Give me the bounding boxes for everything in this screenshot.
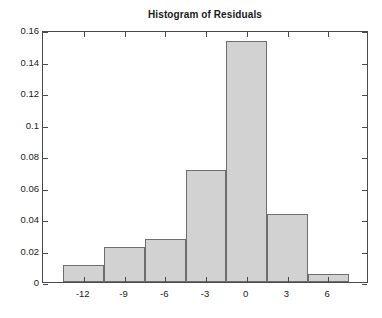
y-tick-mark (43, 190, 48, 191)
chart-title: Histogram of Residuals (42, 9, 368, 20)
y-tick-mark-right (362, 221, 367, 222)
histogram-bar (267, 214, 308, 282)
histogram-bar (186, 170, 227, 282)
x-tick-label: 6 (307, 288, 347, 299)
y-tick-mark (43, 32, 48, 33)
x-tick-label: 3 (267, 288, 307, 299)
plot-area (43, 32, 367, 282)
y-tick-label: 0.02 (3, 246, 39, 257)
y-tick-mark-right (362, 284, 367, 285)
x-tick-label: -12 (63, 288, 103, 299)
y-tick-mark (43, 158, 48, 159)
y-tick-label: 0.04 (3, 214, 39, 225)
x-tick-mark-top (288, 32, 289, 37)
y-tick-mark-right (362, 127, 367, 128)
y-axis: 00.020.040.060.080.10.120.140.16 (0, 31, 39, 283)
histogram-bar (226, 41, 267, 282)
x-tick-mark-top (125, 32, 126, 37)
y-tick-mark-right (362, 158, 367, 159)
y-tick-label: 0.06 (3, 183, 39, 194)
x-tick-mark-top (84, 32, 85, 37)
plot-frame (42, 31, 368, 283)
y-tick-mark-right (362, 190, 367, 191)
x-tick-mark-top (328, 32, 329, 37)
x-tick-mark-top (206, 32, 207, 37)
x-tick-mark (288, 277, 289, 282)
y-tick-mark (43, 127, 48, 128)
y-tick-mark (43, 284, 48, 285)
x-tick-mark (125, 277, 126, 282)
x-tick-label: -6 (144, 288, 184, 299)
x-axis: -12-9-6-3036 (42, 288, 368, 304)
x-tick-mark (84, 277, 85, 282)
y-tick-mark-right (362, 95, 367, 96)
y-tick-label: 0.16 (3, 25, 39, 36)
y-tick-mark-right (362, 64, 367, 65)
y-tick-label: 0.14 (3, 57, 39, 68)
x-tick-mark-top (165, 32, 166, 37)
y-tick-mark (43, 253, 48, 254)
x-tick-label: 0 (226, 288, 266, 299)
y-tick-label: 0.1 (3, 120, 39, 131)
x-tick-label: -3 (185, 288, 225, 299)
y-tick-mark (43, 64, 48, 65)
histogram-figure: Histogram of Residuals 00.020.040.060.08… (0, 0, 382, 318)
x-tick-mark (206, 277, 207, 282)
histogram-bar (145, 239, 186, 282)
y-tick-label: 0.12 (3, 88, 39, 99)
y-tick-label: 0 (3, 277, 39, 288)
x-tick-mark (165, 277, 166, 282)
x-tick-label: -9 (104, 288, 144, 299)
x-tick-mark (247, 277, 248, 282)
y-tick-label: 0.08 (3, 151, 39, 162)
y-tick-mark-right (362, 253, 367, 254)
y-tick-mark (43, 95, 48, 96)
x-tick-mark-top (247, 32, 248, 37)
y-tick-mark-right (362, 32, 367, 33)
x-tick-mark (328, 277, 329, 282)
y-tick-mark (43, 221, 48, 222)
